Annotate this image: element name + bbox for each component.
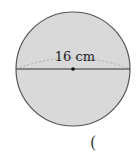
answer-parenthesis: (	[90, 133, 96, 152]
center-point	[71, 67, 75, 71]
diameter-label: 16 cm	[50, 49, 100, 64]
sphere-diagram	[0, 0, 137, 156]
